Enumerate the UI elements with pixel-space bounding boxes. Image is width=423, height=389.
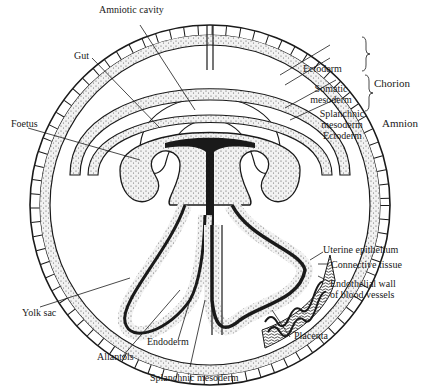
label-gut: Gut: [74, 50, 89, 61]
label-uterine-epithelium: Uterine epithelium: [323, 244, 398, 255]
label-somatic-mesoderm: Somatic mesoderm: [308, 83, 354, 105]
label-somatic-line1: Somatic: [308, 83, 354, 94]
label-endothelial-line2: of blood vessels: [330, 289, 396, 300]
label-allantois: Allantois: [97, 351, 134, 362]
label-amnion-splanchnic-line1: Splanchnic: [314, 108, 370, 119]
label-yolk-sac: Yolk sac: [22, 307, 56, 318]
label-foetus: Foetus: [11, 118, 38, 129]
label-amnion-ectoderm: Ectoderm: [323, 130, 362, 141]
label-somatic-line2: mesoderm: [308, 94, 354, 105]
label-connective-tissue: Connective tissue: [331, 259, 402, 270]
label-amnion-splanchnic-mesoderm: Splanchnic mesoderm: [314, 108, 370, 130]
group-label-amnion: Amnion: [382, 118, 418, 129]
label-endothelial-line1: Endothelial wall: [330, 278, 396, 289]
label-amnion-splanchnic-line2: mesoderm: [314, 119, 370, 130]
label-chorion-ectoderm: Ectoderm: [303, 63, 342, 74]
label-endothelial-wall: Endothelial wall of blood vessels: [330, 278, 396, 300]
label-endoderm: Endoderm: [147, 336, 189, 347]
embryo-diagram: [0, 0, 423, 389]
label-splanchnic-mesoderm-bottom: Splanchnic mesoderm: [150, 372, 239, 383]
label-amniotic-cavity: Amniotic cavity: [99, 4, 164, 15]
yolk-sac: [125, 205, 205, 333]
group-label-chorion: Chorion: [374, 78, 410, 89]
label-placenta: Placenta: [294, 330, 328, 341]
